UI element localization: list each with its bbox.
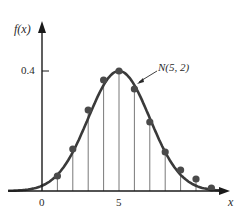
x-axis-arrow-icon	[219, 187, 230, 195]
data-point	[177, 166, 184, 173]
data-point	[192, 175, 199, 182]
data-point	[69, 145, 76, 152]
data-point	[131, 85, 138, 92]
x-tick-label-0: 0	[39, 197, 45, 208]
y-axis-arrow-icon	[38, 21, 46, 33]
x-axis-label: x	[228, 196, 233, 208]
distribution-annotation: N(5, 2)	[158, 62, 189, 73]
data-point	[162, 148, 169, 155]
data-point	[85, 106, 92, 113]
normal-distribution-chart	[0, 0, 239, 217]
x-tick-label-5: 5	[116, 197, 122, 208]
data-point	[115, 67, 122, 74]
annotation-arrowhead-icon	[137, 78, 144, 84]
data-point	[54, 172, 61, 179]
y-axis-label: f(x)	[14, 23, 31, 35]
data-point	[146, 118, 153, 125]
y-tick-label-0.4: 0.4	[21, 65, 35, 76]
data-point	[100, 76, 107, 83]
density-curve	[8, 71, 221, 191]
